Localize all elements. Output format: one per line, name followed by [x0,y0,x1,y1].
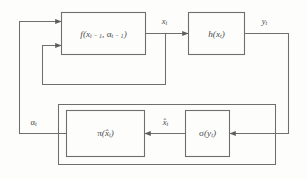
block-label-policy: π(x̂t) [97,128,114,139]
block-label-estimator: σ(yt) [199,128,216,139]
block-label-observation: h(xt) [208,29,225,40]
signal-label-measurement: yt [261,15,268,26]
signal-label-estimate: x̂t [162,116,169,127]
signal-label-state: xt [161,15,168,26]
signal-label-action: αt [30,116,37,127]
block-diagram: f(xt − 1, αt − 1) h(xt) π(x̂t) σ(yt) xt … [0,0,307,179]
diagram-canvas: f(xt − 1, αt − 1) h(xt) π(x̂t) σ(yt) xt … [0,0,307,179]
